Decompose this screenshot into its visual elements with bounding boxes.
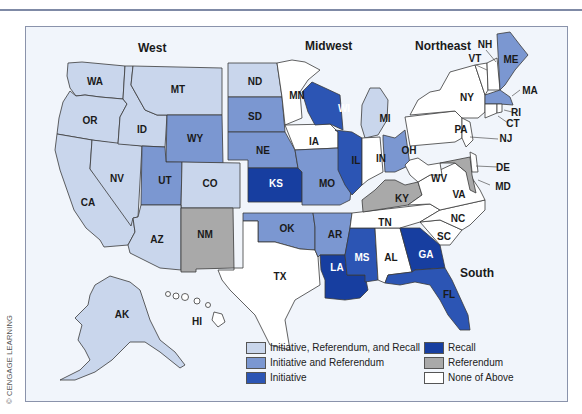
- label-MA: MA: [522, 85, 538, 96]
- label-AL: AL: [384, 252, 397, 263]
- legend-item-recall: Recall: [424, 341, 476, 354]
- label-NC: NC: [451, 213, 465, 224]
- label-MN: MN: [289, 90, 305, 101]
- label-MO: MO: [319, 178, 335, 189]
- state-NM[interactable]: [181, 208, 234, 272]
- label-CT: CT: [506, 118, 519, 129]
- legend-label: Initiative and Referendum: [270, 357, 384, 368]
- label-CO: CO: [203, 178, 218, 189]
- label-AR: AR: [328, 229, 343, 240]
- legend-item-irr: Initiative, Referendum, and Recall: [246, 341, 420, 354]
- label-WY: WY: [187, 133, 203, 144]
- label-WV: WV: [431, 173, 447, 184]
- label-SC: SC: [437, 231, 451, 242]
- legend-label: None of Above: [448, 372, 514, 383]
- label-NY: NY: [460, 92, 474, 103]
- state-RI[interactable]: [497, 104, 502, 113]
- legend-item-ir: Initiative and Referendum: [246, 356, 384, 369]
- legend-swatch-recall: [424, 342, 444, 354]
- state-MA[interactable]: [485, 90, 513, 105]
- label-AZ: AZ: [150, 234, 163, 245]
- state-WI[interactable]: [302, 82, 343, 130]
- legend-label: Recall: [448, 342, 476, 353]
- state-NH[interactable]: [487, 58, 500, 90]
- legend-swatch-referendum: [424, 357, 444, 369]
- label-KY: KY: [395, 193, 409, 204]
- label-ND: ND: [248, 76, 262, 87]
- label-PA: PA: [454, 124, 467, 135]
- label-TN: TN: [378, 217, 391, 228]
- legend-swatch-none: [424, 372, 444, 384]
- label-OR: OR: [83, 115, 99, 126]
- legend-swatch-initiative: [246, 372, 266, 384]
- region-midwest: Midwest: [305, 39, 352, 53]
- region-west: West: [138, 41, 166, 55]
- label-NE: NE: [256, 145, 270, 156]
- label-NH: NH: [478, 39, 492, 50]
- legend-swatch-ir: [246, 357, 266, 369]
- label-SD: SD: [248, 111, 262, 122]
- label-AK: AK: [115, 309, 130, 320]
- legend-item-referendum: Referendum: [424, 356, 503, 369]
- label-ME: ME: [504, 54, 519, 65]
- label-MS: MS: [355, 252, 370, 263]
- label-NM: NM: [197, 229, 213, 240]
- label-ID: ID: [137, 124, 147, 135]
- label-WA: WA: [87, 76, 103, 87]
- state-AK[interactable]: [60, 276, 185, 380]
- state-CT[interactable]: [485, 104, 497, 118]
- region-northeast: Northeast: [415, 39, 471, 53]
- legend-label: Initiative, Referendum, and Recall: [270, 342, 420, 353]
- label-VT: VT: [469, 53, 482, 64]
- label-UT: UT: [158, 175, 171, 186]
- label-OK: OK: [280, 223, 296, 234]
- state-FL[interactable]: [385, 268, 470, 330]
- legend-label: Initiative: [270, 372, 307, 383]
- label-KS: KS: [269, 178, 283, 189]
- label-FL: FL: [443, 289, 455, 300]
- label-DE: DE: [496, 162, 510, 173]
- label-NV: NV: [110, 173, 124, 184]
- label-RI: RI: [511, 107, 521, 118]
- label-HI: HI: [192, 316, 202, 327]
- label-MD: MD: [495, 181, 511, 192]
- label-VA: VA: [452, 189, 465, 200]
- legend-label: Referendum: [448, 357, 503, 368]
- label-TX: TX: [274, 271, 287, 282]
- label-IL: IL: [352, 155, 361, 166]
- label-LA: LA: [330, 262, 343, 273]
- label-GA: GA: [419, 249, 434, 260]
- label-IA: IA: [309, 136, 319, 147]
- label-NJ: NJ: [500, 133, 513, 144]
- label-MI: MI: [379, 113, 390, 124]
- legend-item-none: None of Above: [424, 371, 514, 384]
- label-IN: IN: [376, 153, 386, 164]
- label-WI: WI: [338, 103, 350, 114]
- label-OH: OH: [402, 145, 417, 156]
- label-MT: MT: [171, 84, 185, 95]
- region-south: South: [460, 266, 494, 280]
- legend-item-initiative: Initiative: [246, 371, 307, 384]
- legend-swatch-irr: [246, 342, 266, 354]
- label-CA: CA: [81, 197, 95, 208]
